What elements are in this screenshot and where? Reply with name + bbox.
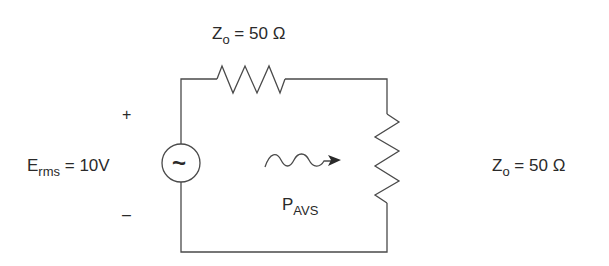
power-flow-label: PAVS xyxy=(282,196,318,217)
series-resistor-label-main: Z xyxy=(212,24,222,43)
circuit-diagram xyxy=(0,0,609,266)
source-label-main: E xyxy=(27,156,38,175)
load-resistor-label-main: Z xyxy=(492,156,502,175)
minus-sign: – xyxy=(122,207,131,223)
ac-source-tilde-icon: ~ xyxy=(172,151,186,175)
load-resistor-label-value: = 50 Ω xyxy=(510,156,566,175)
power-flow-wave xyxy=(265,154,335,167)
wire-left-top xyxy=(181,79,217,144)
series-resistor xyxy=(217,66,285,93)
wire-bottom xyxy=(181,182,387,252)
source-label-value: = 10V xyxy=(60,156,110,175)
power-flow-label-main: P xyxy=(282,195,293,214)
series-resistor-label-value: = 50 Ω xyxy=(230,24,286,43)
load-resistor-label: Zo = 50 Ω xyxy=(492,157,565,178)
load-resistor-label-sub: o xyxy=(502,164,509,179)
series-resistor-label: Zo = 50 Ω xyxy=(212,25,285,46)
source-label-sub: rms xyxy=(38,164,60,179)
series-resistor-label-sub: o xyxy=(222,32,229,47)
source-label: Erms = 10V xyxy=(27,157,110,178)
load-resistor xyxy=(375,114,399,203)
power-flow-label-sub: AVS xyxy=(293,203,318,218)
wire-top-right xyxy=(285,79,387,114)
plus-sign: + xyxy=(122,107,131,123)
